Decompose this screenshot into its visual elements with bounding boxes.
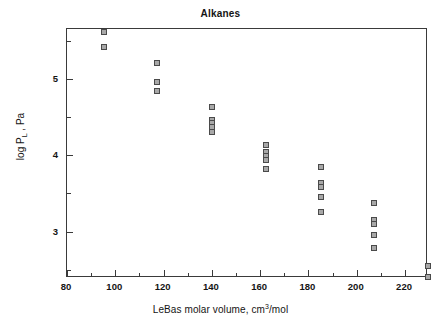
x-tick-label: 140 xyxy=(203,281,219,292)
data-point xyxy=(263,157,269,163)
data-point xyxy=(371,232,377,238)
data-point xyxy=(209,104,215,110)
y-tick-label: 5 xyxy=(44,73,58,84)
x-tick-major xyxy=(308,270,309,276)
x-tick-major xyxy=(357,270,358,276)
data-point xyxy=(154,79,160,85)
x-tick-minor xyxy=(91,273,92,277)
data-point xyxy=(154,88,160,94)
x-tick-major xyxy=(67,270,68,276)
y-axis-title-pre: log P xyxy=(15,137,26,160)
x-tick-label: 220 xyxy=(396,281,412,292)
x-tick-major xyxy=(212,270,213,276)
data-point xyxy=(425,274,431,280)
x-axis-title-pre: LeBas molar volume, cm xyxy=(153,304,265,315)
data-point xyxy=(318,209,324,215)
figure: Alkanes LeBas molar volume, cm3/mol log … xyxy=(0,0,441,329)
x-tick-minor xyxy=(236,273,237,277)
x-tick-major xyxy=(164,270,165,276)
data-point xyxy=(318,194,324,200)
x-tick-label: 200 xyxy=(348,281,364,292)
x-tick-label: 120 xyxy=(155,281,171,292)
x-tick-minor xyxy=(284,273,285,277)
data-point xyxy=(371,221,377,227)
y-tick-label: 3 xyxy=(44,225,58,236)
data-point xyxy=(154,60,160,66)
data-point xyxy=(371,245,377,251)
x-tick-minor xyxy=(333,273,334,277)
y-axis-title: log PL , Pa xyxy=(15,72,28,202)
data-point xyxy=(101,29,107,35)
data-point xyxy=(425,263,431,269)
x-tick-major xyxy=(260,270,261,276)
data-point xyxy=(101,44,107,50)
x-tick-label: 100 xyxy=(106,281,122,292)
x-tick-minor xyxy=(139,273,140,277)
x-tick-major xyxy=(115,270,116,276)
x-axis-title-post: /mol xyxy=(269,304,288,315)
y-tick-major xyxy=(67,155,73,156)
data-point xyxy=(371,200,377,206)
x-tick-minor xyxy=(188,273,189,277)
y-axis-title-sub: L xyxy=(21,133,28,137)
x-tick-label: 180 xyxy=(300,281,316,292)
data-point xyxy=(263,142,269,148)
x-tick-label: 80 xyxy=(61,281,72,292)
data-point xyxy=(209,129,215,135)
y-tick-minor xyxy=(67,117,71,118)
x-tick-major xyxy=(405,270,406,276)
data-point xyxy=(318,164,324,170)
y-tick-major xyxy=(67,79,73,80)
y-tick-label: 4 xyxy=(44,149,58,160)
data-point xyxy=(318,184,324,190)
data-point xyxy=(263,166,269,172)
plot-area xyxy=(66,28,427,277)
y-tick-minor xyxy=(67,41,71,42)
y-tick-minor xyxy=(67,193,71,194)
y-tick-major xyxy=(67,232,73,233)
y-tick-minor xyxy=(67,270,71,271)
y-axis-title-post: , Pa xyxy=(15,113,26,134)
chart-title: Alkanes xyxy=(0,8,441,19)
x-tick-minor xyxy=(381,273,382,277)
x-tick-label: 160 xyxy=(251,281,267,292)
x-axis-title: LeBas molar volume, cm3/mol xyxy=(0,303,441,315)
